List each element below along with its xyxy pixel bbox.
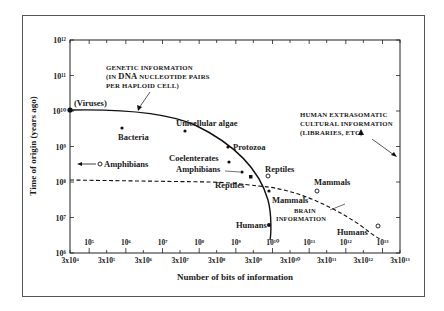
point-coelenterates <box>227 160 230 163</box>
point-amphibians <box>240 170 243 173</box>
svg-text:3x10¹³: 3x10¹³ <box>390 256 410 265</box>
svg-text:Amphibians: Amphibians <box>104 159 149 169</box>
svg-text:Coelenterates: Coelenterates <box>169 153 219 163</box>
brain-point-humans <box>376 224 380 228</box>
svg-text:3x10⁶: 3x10⁶ <box>135 256 153 265</box>
svg-text:3x10⁴: 3x10⁴ <box>61 256 79 265</box>
x-axis-tick-labels: 3x10⁴3x10⁵3x10⁶3x10⁷3x10⁸3x10⁹3x10¹⁰3x10… <box>61 256 410 265</box>
svg-text:3x10¹²: 3x10¹² <box>354 256 374 265</box>
svg-text:3x10⁷: 3x10⁷ <box>171 256 189 265</box>
svg-text:HUMAN EXTRASOMATIC: HUMAN EXTRASOMATIC <box>300 111 388 118</box>
svg-text:10⁷: 10⁷ <box>158 238 169 247</box>
svg-text:10¹²: 10¹² <box>340 238 353 247</box>
svg-text:10¹¹: 10¹¹ <box>303 238 315 247</box>
y-axis-tick-labels: 10¹²10¹¹10¹⁰10⁹10⁸10⁷10⁶ <box>53 36 67 258</box>
svg-text:(Viruses): (Viruses) <box>74 98 107 108</box>
point-reptiles <box>249 175 253 179</box>
annotation-brain: BRAIN INFORMATION <box>276 207 326 222</box>
point-humans <box>267 223 271 227</box>
point-viruses <box>67 107 72 112</box>
svg-text:Mammals: Mammals <box>272 195 309 205</box>
svg-text:CULTURAL INFORMATION: CULTURAL INFORMATION <box>300 120 393 127</box>
svg-text:10¹⁰: 10¹⁰ <box>53 107 67 116</box>
brain-point-reptiles <box>266 174 270 178</box>
brain-point-amphibians <box>98 162 102 166</box>
svg-text:10¹¹: 10¹¹ <box>53 72 66 81</box>
svg-text:3x10⁸: 3x10⁸ <box>208 256 226 265</box>
svg-text:3x10⁹: 3x10⁹ <box>245 256 263 265</box>
svg-text:Reptiles: Reptiles <box>265 164 295 174</box>
svg-text:10⁸: 10⁸ <box>194 238 205 247</box>
svg-text:10⁷: 10⁷ <box>56 214 67 223</box>
svg-text:INFORMATION: INFORMATION <box>276 215 326 222</box>
annotation-genetic: GENETIC INFORMATION (IN DNA NUCLEOTIDE P… <box>106 64 210 90</box>
svg-text:Amphibians: Amphibians <box>176 164 221 174</box>
svg-text:BRAIN: BRAIN <box>294 207 316 214</box>
svg-text:10¹⁰: 10¹⁰ <box>266 238 280 247</box>
svg-text:(IN DNA NUCLEOTIDE PAIRS: (IN DNA NUCLEOTIDE PAIRS <box>106 71 210 81</box>
svg-text:Mammals: Mammals <box>314 177 351 187</box>
svg-text:3x10⁵: 3x10⁵ <box>98 256 116 265</box>
svg-text:10⁶: 10⁶ <box>121 238 132 247</box>
y-axis-label: Time of origin (years ago) <box>28 96 38 195</box>
svg-text:Bacteria: Bacteria <box>118 132 149 142</box>
svg-text:Humans: Humans <box>337 227 368 237</box>
point-mammals <box>267 189 270 192</box>
brain-point-mammals <box>315 189 319 193</box>
svg-text:Reptiles: Reptiles <box>215 180 245 190</box>
svg-text:Humans: Humans <box>236 220 267 230</box>
x-axis-label: Number of bits of information <box>177 272 293 282</box>
point-protozoa <box>226 145 229 148</box>
svg-text:(LIBRARIES, ETC): (LIBRARIES, ETC) <box>300 129 363 137</box>
svg-text:10⁵: 10⁵ <box>84 238 95 247</box>
x-axis-inner-tick-labels: 10⁵10⁶10⁷10⁸10⁹10¹⁰10¹¹10¹²10¹³ <box>84 238 389 247</box>
annotation-cultural: HUMAN EXTRASOMATIC CULTURAL INFORMATION … <box>300 111 393 137</box>
svg-text:3x10¹⁰: 3x10¹⁰ <box>280 256 301 265</box>
svg-text:10¹²: 10¹² <box>53 36 66 45</box>
svg-text:10¹³: 10¹³ <box>377 238 390 247</box>
svg-text:GENETIC INFORMATION: GENETIC INFORMATION <box>106 64 193 71</box>
svg-text:PER HAPLOID CELL): PER HAPLOID CELL) <box>106 82 179 90</box>
genetic-points <box>67 107 271 227</box>
chart: 10¹²10¹¹10¹⁰10⁹10⁸10⁷10⁶ 3x10⁴3x10⁵3x10⁶… <box>0 0 444 311</box>
point-unicellular-algae <box>183 129 186 132</box>
svg-text:3x10¹¹: 3x10¹¹ <box>317 256 337 265</box>
svg-text:10⁸: 10⁸ <box>56 178 67 187</box>
svg-text:10⁹: 10⁹ <box>231 238 242 247</box>
svg-text:Protozoa: Protozoa <box>233 142 266 152</box>
point-bacteria <box>120 126 123 129</box>
svg-text:Unicellular algae: Unicellular algae <box>176 118 238 128</box>
svg-text:10⁹: 10⁹ <box>56 143 67 152</box>
